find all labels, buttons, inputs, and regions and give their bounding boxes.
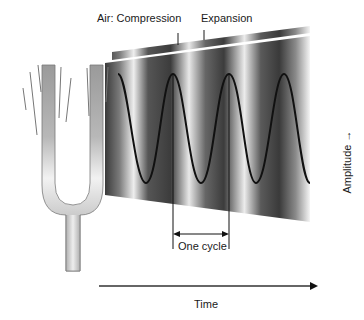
expansion-label: Expansion — [201, 12, 252, 24]
compression-label: Air: Compression — [97, 12, 181, 24]
diagram-canvas — [0, 0, 364, 320]
wave-field — [105, 36, 310, 222]
tuning-fork-icon — [42, 65, 103, 271]
one-cycle-label: One cycle — [178, 240, 227, 252]
amplitude-label: Amplitude → — [341, 117, 353, 207]
sound-wave-diagram: Air: Compression Expansion One cycle Tim… — [0, 0, 364, 320]
time-label: Time — [194, 298, 218, 310]
time-axis-arrow — [99, 282, 318, 290]
